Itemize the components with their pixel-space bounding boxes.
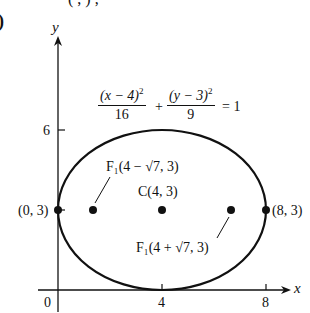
center-label: C(4, 3) [138,185,178,199]
equation-denominator-2: 9 [187,106,194,123]
equation-plus: + [155,100,163,114]
focus-right-point [227,206,235,214]
center-point [158,206,166,214]
equation-exponent-2: 2 [208,86,213,96]
x-tick-label-0: 0 [44,296,51,310]
equation-rhs: = 1 [222,100,240,114]
x-tick-label-4: 4 [158,296,165,310]
y-tick-label-6: 6 [43,124,50,138]
focus-left-leader [95,177,110,203]
equation-numerator-2: (y − 3) [169,88,208,103]
ellipse-plot [0,0,310,313]
left-vertex-label: (0, 3) [18,204,48,218]
equation-fraction-2: (y − 3)2 9 [167,86,215,123]
y-axis-label: y [52,20,59,35]
focus-right-leader [217,217,229,238]
focus-right-label: F₁(4 + √7, 3) [136,241,209,255]
equation-numerator-1: (x − 4) [100,88,139,103]
x-tick-label-8: 8 [262,296,269,310]
equation-denominator-1: 16 [115,106,129,123]
equation-exponent-1: 2 [139,86,144,96]
x-axis-label: x [294,281,301,296]
left-vertex-point [54,206,62,214]
right-vertex-point [262,206,270,214]
equation-fraction-1: (x − 4)2 16 [98,86,146,123]
focus-left-label: F₁(4 − √7, 3) [106,160,179,174]
focus-left-point [89,206,97,214]
right-vertex-label: (8, 3) [272,204,302,218]
